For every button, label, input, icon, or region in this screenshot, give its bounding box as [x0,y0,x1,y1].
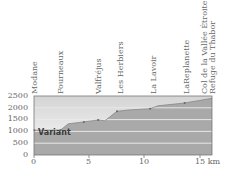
waypoint-label-refuge-thabor: Refuge du Thabor [209,21,217,94]
waypoint-label-lareplanette: LaReplanette [183,40,191,94]
waypoint-label-modane: Modane [31,61,39,94]
axis-ticks [34,155,200,158]
y-tick-500: 500 [0,138,28,147]
x-tick-0: 0 [31,157,36,166]
waypoint-label-la-lavoir: La Lavoir [150,56,158,94]
waypoint-label-les-herbiers: Les Herbiers [117,41,125,94]
x-tick-10: 10 [139,157,149,166]
x-tick-5: 5 [86,157,91,166]
x-tick-15-km: 15 km [195,157,220,166]
y-tick-2500: 2500 [0,91,28,100]
elevation-profile-chart: Modane Fourneaux Valfréjus Les Herbiers … [0,0,237,182]
y-tick-1500: 1500 [0,114,28,123]
variant-label: Variant [38,128,71,137]
y-tick-2000: 2000 [0,103,28,112]
waypoint-label-valfrejus: Valfréjus [95,58,103,94]
y-tick-1000: 1000 [0,126,28,135]
y-tick-0: 0 [0,150,28,159]
waypoint-label-fourneaux: Fourneaux [57,51,65,94]
